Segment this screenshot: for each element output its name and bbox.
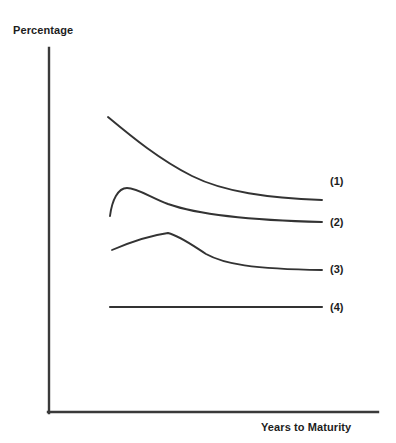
x-axis-label: Years to Maturity: [261, 421, 351, 433]
y-axis-label: Percentage: [13, 24, 73, 36]
curve-label-1: (1): [330, 175, 343, 187]
curve-label-4: (4): [330, 301, 343, 313]
curve-3-path: [112, 233, 322, 270]
curve-label-2: (2): [330, 216, 343, 228]
curve-1-path: [108, 117, 322, 200]
yield-curve-figure: Percentage Years to Maturity (1) (2) (3)…: [0, 0, 396, 443]
curve-label-3: (3): [330, 263, 343, 275]
curve-2-path: [110, 188, 322, 222]
